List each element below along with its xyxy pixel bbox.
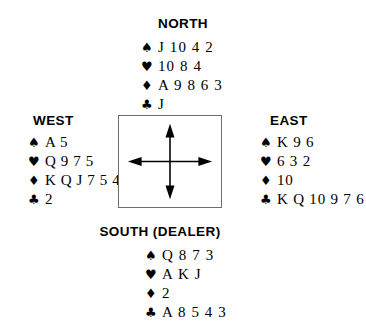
compass-box xyxy=(118,115,222,208)
hand-west-clubs: 2 xyxy=(45,190,53,209)
diamond-icon: ♦ xyxy=(28,171,45,190)
heart-icon: ♥ xyxy=(28,152,45,171)
hand-east-hearts: 6 3 2 xyxy=(277,152,311,171)
hand-north-diamonds: A 9 8 6 3 xyxy=(158,76,223,95)
four-way-compass-arrows-icon xyxy=(119,116,221,207)
hand-west-diamonds: K Q J 7 5 4 xyxy=(45,171,120,190)
hand-east-diamonds-row: ♦ 10 xyxy=(260,171,365,190)
hand-west-spades: A 5 xyxy=(45,133,68,152)
hand-east: ♠ K 9 6 ♥ 6 3 2 ♦ 10 ♣ K Q 10 9 7 6 xyxy=(260,133,365,209)
diamond-icon: ♦ xyxy=(260,171,277,190)
club-icon: ♣ xyxy=(28,190,45,209)
heart-icon: ♥ xyxy=(145,265,162,284)
diamond-icon: ♦ xyxy=(141,76,158,95)
hand-east-spades-row: ♠ K 9 6 xyxy=(260,133,365,152)
hand-south-hearts: A K J xyxy=(162,265,202,284)
hand-west-spades-row: ♠ A 5 xyxy=(28,133,120,152)
diamond-icon: ♦ xyxy=(145,284,162,303)
hand-east-clubs: K Q 10 9 7 6 xyxy=(277,190,365,209)
seat-label-north: NORTH xyxy=(0,16,366,31)
club-icon: ♣ xyxy=(141,95,158,114)
hand-east-diamonds: 10 xyxy=(277,171,294,190)
seat-label-east: EAST xyxy=(270,113,308,128)
hand-west-clubs-row: ♣ 2 xyxy=(28,190,120,209)
hand-south: ♠ Q 8 7 3 ♥ A K J ♦ 2 ♣ A 8 5 4 3 xyxy=(145,246,227,322)
hand-south-clubs-row: ♣ A 8 5 4 3 xyxy=(145,303,227,322)
spade-icon: ♠ xyxy=(28,133,45,152)
hand-west-diamonds-row: ♦ K Q J 7 5 4 xyxy=(28,171,120,190)
bridge-hand-diagram: NORTH ♠ J 10 4 2 ♥ 10 8 4 ♦ A 9 8 6 3 ♣ … xyxy=(0,0,366,335)
hand-south-diamonds: 2 xyxy=(162,284,171,303)
hand-south-spades: Q 8 7 3 xyxy=(162,246,214,265)
heart-icon: ♥ xyxy=(141,57,158,76)
spade-icon: ♠ xyxy=(260,133,277,152)
hand-north: ♠ J 10 4 2 ♥ 10 8 4 ♦ A 9 8 6 3 ♣ J xyxy=(141,38,223,114)
hand-north-spades-row: ♠ J 10 4 2 xyxy=(141,38,223,57)
heart-icon: ♥ xyxy=(260,152,277,171)
hand-north-hearts: 10 8 4 xyxy=(158,57,202,76)
hand-north-clubs: J xyxy=(158,95,165,114)
club-icon: ♣ xyxy=(145,303,162,322)
hand-south-clubs: A 8 5 4 3 xyxy=(162,303,227,322)
hand-west: ♠ A 5 ♥ Q 9 7 5 ♦ K Q J 7 5 4 ♣ 2 xyxy=(28,133,120,209)
hand-west-hearts-row: ♥ Q 9 7 5 xyxy=(28,152,120,171)
club-icon: ♣ xyxy=(260,190,277,209)
hand-north-spades: J 10 4 2 xyxy=(158,38,214,57)
hand-east-clubs-row: ♣ K Q 10 9 7 6 xyxy=(260,190,365,209)
hand-south-diamonds-row: ♦ 2 xyxy=(145,284,227,303)
hand-west-hearts: Q 9 7 5 xyxy=(45,152,94,171)
seat-label-west: WEST xyxy=(33,113,74,128)
hand-north-hearts-row: ♥ 10 8 4 xyxy=(141,57,223,76)
spade-icon: ♠ xyxy=(141,38,158,57)
hand-east-spades: K 9 6 xyxy=(277,133,314,152)
hand-south-hearts-row: ♥ A K J xyxy=(145,265,227,284)
hand-north-clubs-row: ♣ J xyxy=(141,95,223,114)
hand-south-spades-row: ♠ Q 8 7 3 xyxy=(145,246,227,265)
hand-east-hearts-row: ♥ 6 3 2 xyxy=(260,152,365,171)
hand-north-diamonds-row: ♦ A 9 8 6 3 xyxy=(141,76,223,95)
spade-icon: ♠ xyxy=(145,246,162,265)
seat-label-south: SOUTH (DEALER) xyxy=(0,224,320,239)
